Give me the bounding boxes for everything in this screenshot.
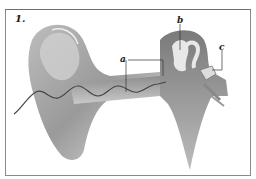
label-b: b bbox=[177, 16, 183, 25]
figure-number: 1. bbox=[15, 13, 25, 24]
middle-inner-ear bbox=[160, 30, 228, 170]
label-a: a bbox=[120, 55, 126, 64]
ear-diagram bbox=[0, 0, 256, 179]
label-c: c bbox=[219, 43, 224, 52]
